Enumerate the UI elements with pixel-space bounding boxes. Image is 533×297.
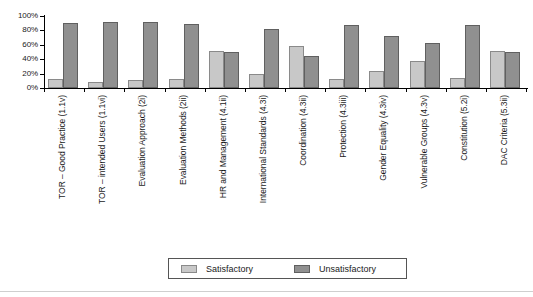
bar-group xyxy=(486,16,526,88)
bar-unsatisfactory xyxy=(465,25,480,88)
y-tick-label: 40% xyxy=(0,55,38,63)
x-axis-category-label: TOR – Good Practice (1.1v) xyxy=(58,95,67,199)
x-axis-category-label: Evaluation Methods (2ii) xyxy=(179,95,188,185)
bar-group xyxy=(365,16,405,88)
x-tick-mark xyxy=(245,88,246,92)
x-tick-mark xyxy=(84,88,85,92)
bar-unsatisfactory xyxy=(264,29,279,88)
legend-swatch-satisfactory xyxy=(181,265,197,273)
bar-satisfactory xyxy=(128,80,143,88)
bar-satisfactory xyxy=(410,61,425,88)
bar-unsatisfactory xyxy=(224,52,239,88)
bar-group xyxy=(245,16,285,88)
bar-satisfactory xyxy=(450,78,465,88)
y-tick-label: 80% xyxy=(0,26,38,34)
bar-unsatisfactory xyxy=(505,52,520,88)
bar-group xyxy=(406,16,446,88)
bar-unsatisfactory xyxy=(344,25,359,88)
x-axis-category-label: Constitution (5.2i) xyxy=(460,95,469,161)
y-tick-label: 60% xyxy=(0,41,38,49)
x-axis-category-label: Coordination (4.3ii) xyxy=(299,95,308,166)
x-tick-mark xyxy=(165,88,166,92)
bar-satisfactory xyxy=(369,71,384,88)
y-tick-label: 0% xyxy=(0,84,38,92)
bar-satisfactory xyxy=(169,79,184,88)
bar-unsatisfactory xyxy=(384,36,399,88)
bar-satisfactory xyxy=(48,79,63,88)
x-tick-mark xyxy=(526,88,527,92)
x-tick-mark xyxy=(44,88,45,92)
bar-group xyxy=(205,16,245,88)
x-axis-category-label: HR and Management (4.1ii) xyxy=(219,95,228,198)
legend-label-satisfactory: Satisfactory xyxy=(206,264,253,274)
bar-satisfactory xyxy=(329,79,344,88)
legend-entry-unsatisfactory: Unsatisfactory xyxy=(294,263,376,275)
bar-satisfactory xyxy=(249,74,264,88)
x-axis-category-label: Evaluation Approach (2i) xyxy=(138,95,147,186)
bar-unsatisfactory xyxy=(143,22,158,88)
x-axis-category-label: International Standards (4.3i) xyxy=(259,95,268,203)
bar-group xyxy=(285,16,325,88)
bar-unsatisfactory xyxy=(425,43,440,88)
x-axis-category-label: Vulnerable Groups (4.3v) xyxy=(420,95,429,188)
x-tick-mark xyxy=(446,88,447,92)
x-axis-category-label: Protection (4.3iii) xyxy=(339,95,348,158)
legend-swatch-unsatisfactory xyxy=(294,265,310,273)
bar-satisfactory xyxy=(209,51,224,88)
x-tick-mark xyxy=(325,88,326,92)
legend-entry-satisfactory: Satisfactory xyxy=(181,263,253,275)
bar-group xyxy=(44,16,84,88)
bar-unsatisfactory xyxy=(184,24,199,88)
x-axis-category-label: Gender Equality (4.3iv) xyxy=(379,95,388,181)
bottom-divider xyxy=(0,291,533,292)
bar-satisfactory xyxy=(490,51,505,88)
bar-group xyxy=(325,16,365,88)
x-tick-mark xyxy=(486,88,487,92)
bar-group xyxy=(165,16,205,88)
bar-satisfactory xyxy=(88,82,103,88)
bar-group xyxy=(124,16,164,88)
x-tick-mark xyxy=(205,88,206,92)
bar-chart-figure: 0%20%40%60%80%100% TOR – Good Practice (… xyxy=(0,0,533,297)
x-tick-mark xyxy=(406,88,407,92)
x-axis-line xyxy=(44,88,528,89)
y-tick-label: 100% xyxy=(0,12,38,20)
bar-group xyxy=(84,16,124,88)
bar-satisfactory xyxy=(289,46,304,88)
x-tick-mark xyxy=(365,88,366,92)
bar-unsatisfactory xyxy=(63,23,78,88)
x-tick-mark xyxy=(285,88,286,92)
bar-group xyxy=(446,16,486,88)
x-axis-category-label: DAC Criteria (5.3ii) xyxy=(500,95,509,165)
chart-legend: Satisfactory Unsatisfactory xyxy=(168,258,407,279)
bar-unsatisfactory xyxy=(103,22,118,88)
x-tick-mark xyxy=(124,88,125,92)
bar-unsatisfactory xyxy=(304,56,319,88)
legend-label-unsatisfactory: Unsatisfactory xyxy=(319,264,376,274)
y-tick-label: 20% xyxy=(0,70,38,78)
x-axis-category-label: TOR – intended Users (1.1vi) xyxy=(98,95,107,204)
